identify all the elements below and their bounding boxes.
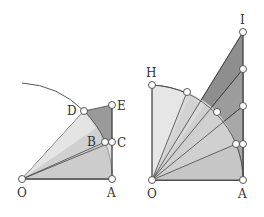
point-H	[149, 82, 156, 89]
point-A	[240, 177, 247, 184]
label-O: O	[17, 186, 27, 200]
label-A: A	[106, 186, 116, 200]
point-A	[109, 176, 116, 183]
point-O	[149, 177, 156, 184]
label-B: B	[87, 135, 96, 149]
right-figure: O A H I	[146, 13, 247, 201]
label-O: O	[147, 187, 157, 201]
point-arc-1	[184, 89, 191, 96]
label-A: A	[237, 187, 247, 201]
label-E: E	[117, 99, 126, 113]
point-E	[109, 102, 116, 109]
point-C	[109, 139, 116, 146]
point-arc-2	[214, 109, 221, 116]
point-O	[19, 176, 26, 183]
label-I: I	[240, 13, 245, 27]
point-arc-3	[233, 141, 240, 148]
point-B	[102, 139, 109, 146]
point-vert-1	[240, 66, 247, 73]
diagram-canvas: O A B C D E	[0, 0, 264, 217]
left-figure: O A B C D E	[17, 83, 126, 200]
point-D	[81, 108, 88, 115]
point-I	[240, 29, 247, 36]
point-vert-2	[240, 103, 247, 110]
label-D: D	[67, 104, 77, 118]
point-vert-3	[240, 141, 247, 148]
label-C: C	[117, 136, 126, 150]
label-H: H	[146, 66, 156, 80]
